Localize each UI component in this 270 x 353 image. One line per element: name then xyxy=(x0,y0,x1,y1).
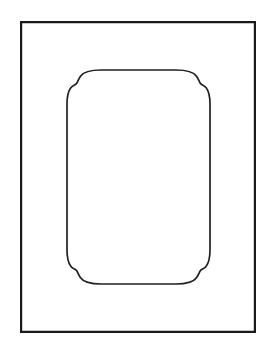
artboard: Ornamental Rectangular Frame A plain rec… xyxy=(0,0,270,353)
inner-ogee-panel-outline xyxy=(67,70,210,284)
frame-illustration xyxy=(0,0,270,353)
